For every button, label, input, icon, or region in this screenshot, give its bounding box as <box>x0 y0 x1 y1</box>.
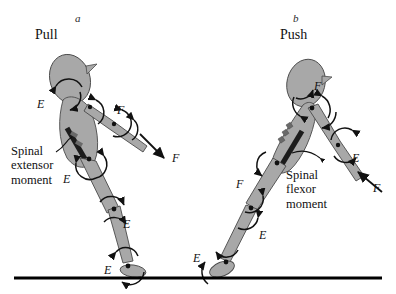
thigh-a <box>80 157 119 213</box>
elbow-moment-label-b: E <box>352 152 359 164</box>
hip-moment-label-a: E <box>63 173 70 185</box>
caption-line: moment <box>286 197 327 211</box>
face-nose-b <box>322 76 332 85</box>
elbow-joint-b <box>336 143 340 147</box>
shank-shape-b <box>220 205 257 262</box>
panel-letter-a: a <box>75 12 81 24</box>
spinal-flexor-caption-b: Spinal flexor moment <box>286 168 327 211</box>
caption-line: moment <box>11 173 53 187</box>
knee-joint-b <box>249 206 254 211</box>
ankle-moment-arc-b2 <box>202 262 208 284</box>
hand-force-label-a: F <box>172 152 179 164</box>
face-nose-a <box>86 64 97 74</box>
panel-a-figure <box>43 49 164 285</box>
panel-title-a: Pull <box>35 27 58 43</box>
hand-force-label-b: F <box>373 182 380 194</box>
caption-line: extensor <box>11 158 53 172</box>
hip-joint-a <box>87 157 92 162</box>
ankle-joint-b <box>224 260 229 265</box>
panel-letter-b: b <box>293 12 299 24</box>
ankle-joint-a <box>126 264 131 269</box>
shank-a <box>108 206 133 263</box>
ankle-moment-label-a: E <box>104 264 111 276</box>
thigh-shape-a <box>80 158 119 213</box>
shoulder-moment-label-a: F <box>117 104 124 116</box>
elbow-joint-a <box>112 122 116 126</box>
hip-joint-b <box>275 161 280 166</box>
caption-line: flexor <box>286 182 327 196</box>
knee-moment-label-a: E <box>123 218 130 230</box>
hip-moment-label-b: F <box>236 178 243 190</box>
panel-title-b: Push <box>280 27 307 43</box>
figure-canvas: a Pull Spinal extensor moment E F F E E … <box>0 0 396 294</box>
shoulder-joint-a <box>88 105 92 109</box>
shoulder-joint-b <box>310 106 315 111</box>
shank-b <box>220 205 257 262</box>
knee-joint-a <box>112 207 117 212</box>
caption-line: Spinal <box>286 168 327 182</box>
spinal-extensor-caption-a: Spinal extensor moment <box>11 144 53 187</box>
neck-moment-label-b: F <box>314 80 321 92</box>
neck-moment-label-a: E <box>37 98 44 110</box>
ankle-moment-label-b: E <box>193 252 200 264</box>
biomechanics-diagram <box>0 0 396 294</box>
knee-moment-label-b: E <box>259 229 266 241</box>
thigh-shape-b <box>246 158 286 210</box>
caption-line: Spinal <box>11 144 53 158</box>
thigh-b <box>246 158 286 210</box>
shank-shape-a <box>108 206 133 263</box>
